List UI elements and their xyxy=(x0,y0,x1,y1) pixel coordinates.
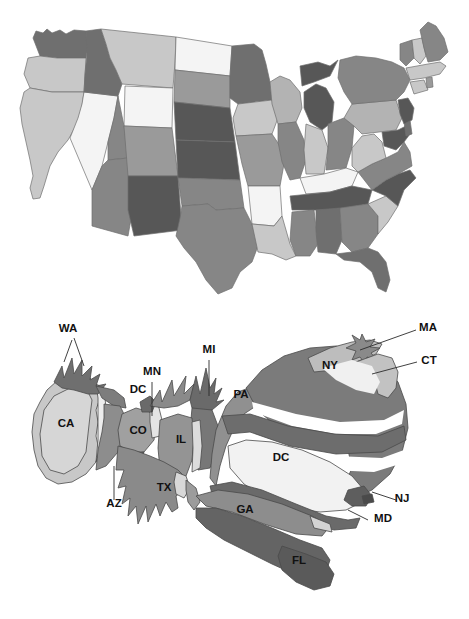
state-NY xyxy=(338,56,410,104)
state-OR xyxy=(24,56,86,92)
cartogram-label-MD: MD xyxy=(374,512,392,524)
cartogram-label-DC-center: DC xyxy=(273,451,290,463)
cartogram-label-DC-left: DC xyxy=(130,383,147,395)
cartogram-label-MI: MI xyxy=(203,343,216,355)
state-AR xyxy=(248,186,282,226)
state-NM xyxy=(128,176,182,236)
state-ND xyxy=(175,37,232,76)
conventional-us-map-panel xyxy=(0,0,469,310)
state-VT xyxy=(400,40,414,66)
cartogram-label-FL: FL xyxy=(292,554,306,566)
state-MI xyxy=(300,60,338,130)
choropleth-svg xyxy=(0,0,469,310)
state-CO xyxy=(124,126,178,176)
state-CT xyxy=(410,80,428,94)
cartogram-label-CA: CA xyxy=(58,417,75,429)
cartogram-label-MA: MA xyxy=(419,321,437,333)
us-cartogram-panel: WA CA AZ CO DC MN MI IL TX PA NY MA CT D… xyxy=(0,310,469,619)
state-OH xyxy=(326,118,354,170)
state-NE xyxy=(174,102,235,142)
cartogram-label-NY: NY xyxy=(322,359,338,371)
two-panel-map-figure: WA CA AZ CO DC MN MI IL TX PA NY MA CT D… xyxy=(0,0,469,619)
state-IA xyxy=(233,100,278,136)
cartogram-label-PA: PA xyxy=(233,388,248,400)
cartogram-label-CO: CO xyxy=(129,424,146,436)
state-MN xyxy=(230,44,272,104)
state-AL xyxy=(316,208,342,254)
cartogram-shapes xyxy=(32,334,408,590)
cartogram-state-TX-tail xyxy=(186,480,200,510)
state-KS xyxy=(176,140,240,180)
cartogram-label-NJ: NJ xyxy=(395,492,410,504)
cartogram-label-MN: MN xyxy=(143,365,161,377)
cartogram-state-NJ-tip xyxy=(362,494,374,504)
leader-line-NJ xyxy=(372,492,396,500)
cartogram-spikes-upper xyxy=(150,376,194,408)
state-MA xyxy=(406,62,446,80)
cartogram-separator-IL-MI xyxy=(192,420,202,472)
state-MS xyxy=(290,210,318,256)
state-WY xyxy=(124,86,173,128)
state-MO xyxy=(236,134,284,186)
cartogram-label-WA: WA xyxy=(59,322,78,334)
state-TX xyxy=(176,204,258,294)
cartogram-label-AZ: AZ xyxy=(106,497,121,509)
cartogram-svg: WA CA AZ CO DC MN MI IL TX PA NY MA CT D… xyxy=(0,310,469,619)
choropleth-states xyxy=(20,22,448,294)
cartogram-label-TX: TX xyxy=(157,481,172,493)
cartogram-label-CT: CT xyxy=(421,354,436,366)
state-GA xyxy=(340,204,378,252)
state-WA xyxy=(33,29,88,58)
state-RI xyxy=(426,77,433,88)
cartogram-label-GA: GA xyxy=(236,503,253,515)
state-FL xyxy=(336,248,390,292)
state-IN xyxy=(304,124,328,174)
cartogram-label-IL: IL xyxy=(176,433,186,445)
state-SD xyxy=(174,70,230,108)
cartogram-state-MI xyxy=(190,368,224,412)
